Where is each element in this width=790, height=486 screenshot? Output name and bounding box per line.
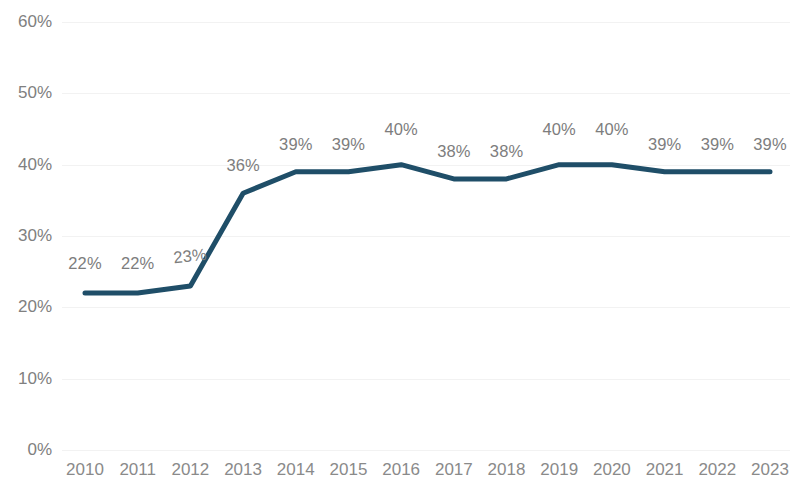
x-axis-label-2022: 2022 [698,460,736,480]
data-label-2012: 23% [173,245,208,267]
data-label-2017: 38% [437,141,470,160]
data-label-2011: 22% [121,254,154,273]
x-axis-label-2017: 2017 [435,460,473,480]
plot-area [0,0,790,486]
data-label-2015: 39% [332,134,365,153]
x-axis-label-2015: 2015 [330,460,368,480]
x-axis-label-2019: 2019 [540,460,578,480]
x-axis-label-2021: 2021 [646,460,684,480]
line-chart: 0%10%20%30%40%50%60% 22%22%23%36%39%39%4… [0,0,790,486]
x-axis-label-2013: 2013 [224,460,262,480]
data-label-2021: 39% [648,134,681,153]
data-label-2023: 39% [753,134,786,153]
x-axis-label-2020: 2020 [593,460,631,480]
x-axis-label-2010: 2010 [66,460,104,480]
x-axis-label-2014: 2014 [277,460,315,480]
x-axis-label-2018: 2018 [488,460,526,480]
data-label-2010: 22% [68,254,101,273]
data-label-2014: 39% [279,134,312,153]
x-axis-label-2016: 2016 [382,460,420,480]
series-line [85,165,770,293]
data-label-2020: 40% [595,119,628,138]
data-label-2022: 39% [701,134,734,153]
data-label-2013: 36% [226,156,259,175]
x-axis-label-2012: 2012 [171,460,209,480]
data-label-2016: 40% [384,119,417,138]
x-axis-label-2023: 2023 [751,460,789,480]
x-axis-label-2011: 2011 [119,460,156,480]
data-label-2018: 38% [490,141,523,160]
data-label-2019: 40% [543,119,576,138]
